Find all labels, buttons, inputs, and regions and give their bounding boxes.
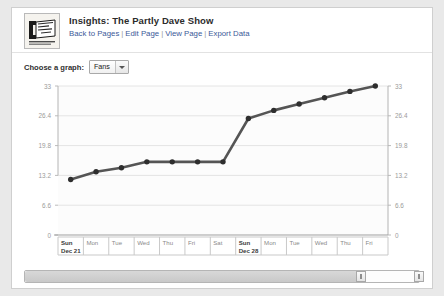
svg-text:13.2: 13.2 [395, 172, 408, 179]
svg-text:19.8: 19.8 [39, 142, 52, 149]
svg-text:Tue: Tue [112, 239, 123, 246]
svg-text:Sat: Sat [213, 239, 222, 246]
svg-text:33: 33 [44, 83, 52, 90]
svg-text:33: 33 [395, 83, 403, 90]
chart-canvas: 006.66.613.213.219.819.826.426.43333SunD… [20, 80, 424, 266]
svg-text:Sun: Sun [61, 239, 73, 246]
header-nav-links: Back to Pages|Edit Page|View Page|Export… [69, 28, 432, 40]
graph-chooser: Choose a graph: Fans [12, 53, 432, 78]
graph-select[interactable]: Fans [89, 60, 129, 74]
header-text-block: Insights: The Partly Dave Show Back to P… [69, 13, 432, 40]
date-range-scrollbar[interactable] [24, 270, 420, 283]
page-header: Insights: The Partly Dave Show Back to P… [12, 8, 432, 53]
svg-text:Mon: Mon [264, 239, 276, 246]
svg-text:Thu: Thu [163, 239, 174, 246]
svg-text:6.6: 6.6 [395, 202, 404, 209]
svg-text:Wed: Wed [137, 239, 149, 246]
chevron-down-icon[interactable] [115, 61, 128, 73]
page-title: Insights: The Partly Dave Show [69, 15, 432, 27]
nav-separator: | [204, 29, 206, 38]
graph-chooser-label: Choose a graph: [24, 63, 84, 72]
left-range-handle[interactable] [356, 271, 366, 282]
svg-text:Wed: Wed [315, 239, 327, 246]
right-range-handle[interactable] [414, 271, 424, 282]
link-export-data[interactable]: Export Data [208, 29, 249, 38]
link-back-to-pages[interactable]: Back to Pages [69, 29, 119, 38]
svg-text:Mon: Mon [86, 239, 98, 246]
svg-text:26.4: 26.4 [395, 112, 408, 119]
svg-text:Fri: Fri [366, 239, 373, 246]
svg-text:Dec 28: Dec 28 [239, 247, 259, 254]
svg-text:Dec 21: Dec 21 [61, 247, 81, 254]
svg-text:6.6: 6.6 [42, 202, 51, 209]
graph-select-value: Fans [94, 61, 115, 73]
svg-text:Thu: Thu [340, 239, 351, 246]
svg-text:0: 0 [47, 232, 51, 239]
svg-text:0: 0 [395, 232, 399, 239]
svg-text:26.4: 26.4 [39, 112, 52, 119]
svg-text:Sun: Sun [239, 239, 251, 246]
svg-text:13.2: 13.2 [39, 172, 52, 179]
fans-line-chart: 006.66.613.213.219.819.826.426.43333SunD… [20, 80, 424, 266]
logo-artwork-icon [25, 14, 59, 48]
nav-separator: | [161, 29, 163, 38]
insights-panel: Insights: The Partly Dave Show Back to P… [11, 7, 433, 289]
svg-text:Tue: Tue [289, 239, 300, 246]
nav-separator: | [121, 29, 123, 38]
page-logo-thumbnail[interactable] [24, 13, 60, 49]
link-view-page[interactable]: View Page [165, 29, 202, 38]
scrollbar-thumb[interactable] [25, 271, 358, 282]
link-edit-page[interactable]: Edit Page [125, 29, 159, 38]
svg-text:19.8: 19.8 [395, 142, 408, 149]
svg-text:Fri: Fri [188, 239, 195, 246]
